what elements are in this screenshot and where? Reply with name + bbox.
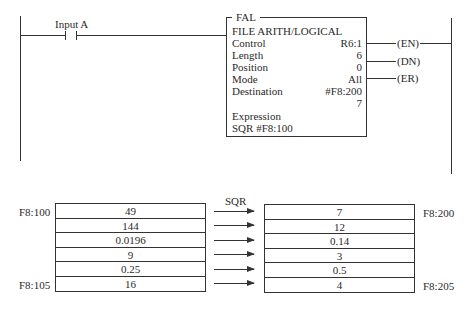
destination-end-label: F8:205 — [423, 280, 454, 292]
dn-coil[interactable]: (DN) — [396, 55, 421, 67]
arrow-icon — [214, 283, 254, 284]
right-power-rail — [451, 18, 452, 174]
field-key: Control — [232, 37, 266, 49]
source-cell: 16 — [56, 277, 205, 292]
field-key: Destination — [232, 85, 283, 97]
source-cell: 49 — [56, 204, 205, 219]
destination-cell: 12 — [265, 220, 414, 235]
source-cell: 0.0196 — [56, 233, 205, 248]
source-start-label: F8:100 — [19, 206, 50, 218]
en-coil[interactable]: (EN) — [396, 37, 420, 49]
rung-wire — [20, 35, 65, 36]
contact-left-bar — [65, 31, 66, 40]
source-file-table: 49 144 0.0196 9 0.25 16 — [55, 203, 206, 292]
destination-cell: 0.5 — [265, 263, 414, 278]
fal-field-destination-value: 7 — [232, 97, 362, 109]
fal-field-mode: Mode All — [232, 73, 362, 85]
rung-wire — [76, 35, 226, 36]
destination-cell: 7 — [265, 205, 414, 220]
field-key: Position — [232, 61, 268, 73]
destination-file-table: 7 12 0.14 3 0.5 4 — [264, 204, 415, 293]
field-value: 0 — [357, 61, 363, 73]
arrow-icon — [214, 254, 254, 255]
destination-cell: 4 — [265, 278, 414, 293]
fal-field-control: Control R6:1 — [232, 37, 362, 49]
destination-cell: 3 — [265, 249, 414, 264]
field-key: Length — [232, 49, 263, 61]
fal-field-position: Position 0 — [232, 61, 362, 73]
fal-field-length: Length 6 — [232, 49, 362, 61]
expression-value: SQR #F8:100 — [232, 122, 293, 134]
field-value: #F8:200 — [325, 85, 362, 97]
fal-title: FILE ARITH/LOGICAL — [232, 25, 342, 37]
arrow-icon — [214, 225, 254, 226]
input-a-label: Input A — [55, 18, 88, 30]
field-value: All — [348, 73, 362, 85]
source-cell: 9 — [56, 248, 205, 263]
fal-type-label: FAL — [232, 11, 260, 23]
er-wire — [367, 78, 397, 79]
arrow-icon — [214, 240, 254, 241]
operation-label: SQR — [225, 195, 246, 207]
field-value: 7 — [357, 97, 363, 109]
source-cell: 0.25 — [56, 262, 205, 277]
arrow-icon — [214, 211, 254, 212]
field-value: R6:1 — [341, 37, 362, 49]
fal-field-destination: Destination #F8:200 — [232, 85, 362, 97]
expression-label: Expression — [232, 110, 281, 122]
er-coil[interactable]: (ER) — [396, 72, 419, 84]
field-value: 6 — [357, 49, 363, 61]
left-power-rail — [20, 16, 21, 161]
destination-cell: 0.14 — [265, 234, 414, 249]
source-cell: 144 — [56, 219, 205, 234]
arrow-icon — [214, 269, 254, 270]
field-key: Mode — [232, 73, 258, 85]
source-end-label: F8:105 — [19, 279, 50, 291]
dn-wire — [367, 61, 397, 62]
destination-start-label: F8:200 — [423, 207, 454, 219]
